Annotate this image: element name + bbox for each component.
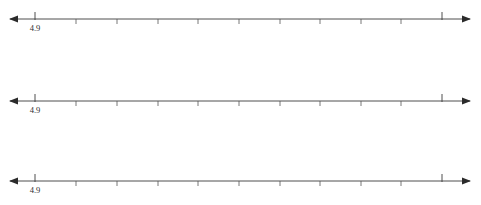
number-line-2: 4.9 bbox=[0, 78, 481, 124]
right-arrow-icon bbox=[462, 178, 471, 185]
tick-label-0: 4.9 bbox=[30, 23, 41, 33]
number-line-worksheet: 4.9 4.9 4.9 bbox=[0, 0, 481, 205]
number-line-1-group: 4.9 bbox=[9, 12, 471, 33]
number-line-3-svg: 4.9 bbox=[0, 158, 481, 204]
tick-label-0: 4.9 bbox=[30, 105, 41, 115]
left-arrow-icon bbox=[9, 16, 18, 23]
number-line-3-group: 4.9 bbox=[9, 174, 471, 195]
number-line-1: 4.9 bbox=[0, 0, 481, 42]
number-line-3: 4.9 bbox=[0, 158, 481, 204]
right-arrow-icon bbox=[462, 16, 471, 23]
tick-label-0: 4.9 bbox=[30, 185, 41, 195]
number-line-2-svg: 4.9 bbox=[0, 78, 481, 124]
left-arrow-icon bbox=[9, 98, 18, 105]
right-arrow-icon bbox=[462, 98, 471, 105]
left-arrow-icon bbox=[9, 178, 18, 185]
number-line-1-svg: 4.9 bbox=[0, 0, 481, 42]
number-line-2-group: 4.9 bbox=[9, 94, 471, 115]
